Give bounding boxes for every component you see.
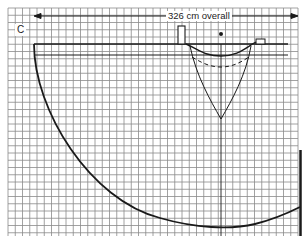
- keel-v-shape: [190, 46, 251, 119]
- panel-label: C: [15, 24, 26, 36]
- mast-post: [178, 26, 185, 44]
- overall-dimension-label: 326 cm overall: [166, 11, 232, 21]
- boat-hull-section-drawing: [0, 0, 304, 242]
- center-point-dot: [219, 32, 223, 36]
- small-fitting-box: [256, 39, 265, 44]
- hull-arc: [34, 44, 300, 227]
